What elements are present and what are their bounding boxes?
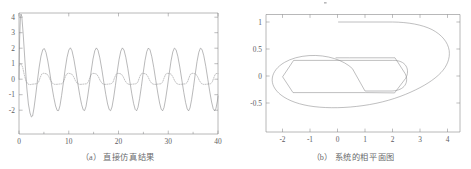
y-tick-label: 4	[11, 13, 15, 22]
x-tick-label: 20	[115, 137, 123, 146]
y-tick-label: 0	[11, 75, 15, 84]
axes-frame-b	[266, 15, 460, 133]
y-tick-label: -0.5	[250, 99, 262, 108]
x-tick-label: -2	[279, 135, 285, 144]
x-axis-labels-b: -2 -1 0 1 2 3 4	[279, 135, 449, 144]
y-tick-label: 3	[11, 28, 15, 37]
x-tick-label: 40	[214, 137, 222, 146]
top-marklet	[324, 2, 327, 4]
y-axis-ticks-b	[266, 22, 460, 103]
y-tick-label: -2	[9, 106, 15, 115]
y-tick-label: 1	[258, 18, 262, 27]
series-output-curve	[19, 14, 218, 117]
x-tick-label: 3	[418, 135, 422, 144]
x-tick-label: 1	[363, 135, 367, 144]
x-axis-labels-a: 0 10 20 30 40	[17, 137, 222, 146]
y-tick-label: 1	[11, 59, 15, 68]
caption-a: （a） 直接仿真结果	[0, 150, 236, 162]
series-limit-cycle	[282, 60, 407, 92]
caption-b-index: （b）	[312, 153, 333, 162]
x-tick-label: 2	[390, 135, 394, 144]
caption-b: （b） 系统的相平面图	[236, 150, 471, 162]
panel-b: 1 0.5 0 -0.5	[236, 0, 471, 169]
caption-a-index: （a）	[81, 153, 101, 162]
time-response-svg: 4 3 2 1 0 -1 -2	[0, 0, 235, 150]
x-axis-ticks-b	[282, 15, 447, 133]
x-tick-label: 30	[165, 137, 173, 146]
caption-a-text: 直接仿真结果	[103, 152, 155, 162]
figure-container: 4 3 2 1 0 -1 -2	[0, 0, 471, 169]
phase-plane-svg: 1 0.5 0 -0.5	[236, 0, 471, 150]
panel-a: 4 3 2 1 0 -1 -2	[0, 0, 236, 169]
x-tick-label: 4	[445, 135, 449, 144]
x-tick-label: 0	[335, 135, 339, 144]
series-outer-trajectory	[272, 22, 449, 108]
y-tick-label: 2	[11, 44, 15, 53]
y-tick-label: 0.5	[252, 45, 262, 54]
x-tick-label: -1	[306, 135, 312, 144]
x-tick-label: 10	[65, 137, 73, 146]
y-axis-labels-b: 1 0.5 0 -0.5	[250, 18, 262, 108]
y-axis-labels-a: 4 3 2 1 0 -1 -2	[9, 13, 15, 115]
y-tick-label: -1	[9, 90, 15, 99]
x-tick-label: 0	[17, 137, 21, 146]
caption-b-text: 系统的相平面图	[335, 152, 395, 162]
y-tick-label: 0	[258, 72, 262, 81]
time-response-plot: 4 3 2 1 0 -1 -2	[0, 0, 235, 150]
phase-plane-plot: 1 0.5 0 -0.5	[236, 0, 471, 150]
